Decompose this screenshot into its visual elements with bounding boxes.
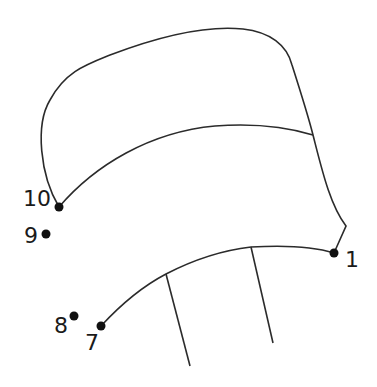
dot-9[interactable] xyxy=(42,230,51,239)
dot-1[interactable] xyxy=(330,249,339,258)
dot-label-8: 8 xyxy=(54,315,68,337)
dot-10[interactable] xyxy=(55,203,64,212)
outline-cap xyxy=(41,28,346,253)
dot-label-9: 9 xyxy=(24,225,38,247)
left-leg-line xyxy=(166,274,190,366)
dot-label-1: 1 xyxy=(345,249,359,271)
dot-8[interactable] xyxy=(70,312,79,321)
puzzle-canvas: 1 7 8 9 10 xyxy=(0,0,377,387)
lower-arc xyxy=(101,246,334,326)
inner-band-curve xyxy=(59,125,313,207)
dot-label-7: 7 xyxy=(85,332,99,354)
right-leg-line xyxy=(251,247,273,343)
dot-label-10: 10 xyxy=(23,188,51,210)
